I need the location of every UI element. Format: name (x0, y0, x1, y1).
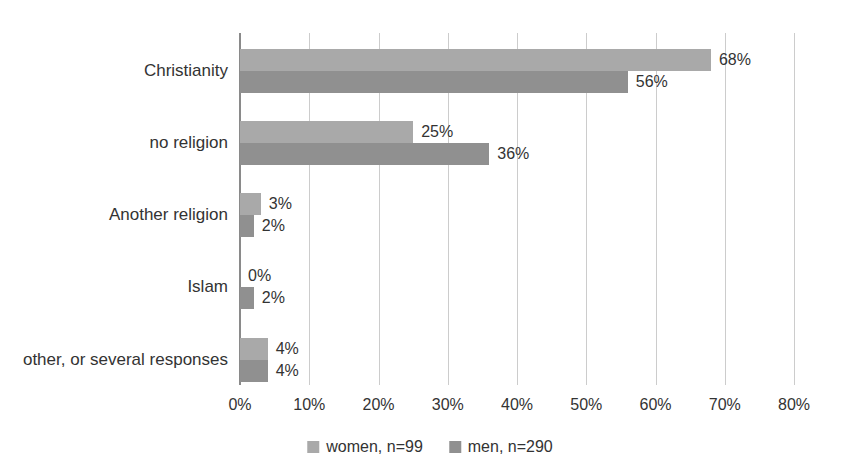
bar-women (240, 338, 268, 360)
x-tick-label: 30% (418, 396, 478, 414)
bar-men (240, 215, 254, 237)
value-label: 2% (262, 287, 285, 309)
bar-men (240, 71, 628, 93)
bar-women (240, 49, 711, 71)
value-label: 56% (636, 71, 668, 93)
legend-swatch-women-icon (307, 441, 319, 453)
value-label: 3% (269, 193, 292, 215)
bar-women (240, 193, 261, 215)
category-label: Christianity (144, 60, 228, 82)
x-tick-label: 40% (487, 396, 547, 414)
bar-men (240, 143, 489, 165)
legend-label-women: women, n=99 (326, 438, 423, 456)
x-tick-label: 50% (556, 396, 616, 414)
legend-label-men: men, n=290 (468, 438, 553, 456)
legend-item-men: men, n=290 (449, 438, 553, 456)
category-label: Another religion (109, 204, 228, 226)
legend: women, n=99 men, n=290 (307, 438, 552, 456)
bar-men (240, 287, 254, 309)
gridline (725, 33, 726, 385)
legend-item-women: women, n=99 (307, 438, 423, 456)
x-tick-label: 60% (626, 396, 686, 414)
x-tick-label: 70% (695, 396, 755, 414)
value-label: 68% (719, 49, 751, 71)
legend-swatch-men-icon (449, 441, 461, 453)
x-tick-label: 10% (279, 396, 339, 414)
category-label: no religion (150, 132, 228, 154)
value-label: 25% (421, 121, 453, 143)
gridline (794, 33, 795, 385)
x-tick-label: 0% (210, 396, 270, 414)
category-label: other, or several responses (23, 349, 228, 371)
bar-men (240, 360, 268, 382)
x-tick-label: 20% (349, 396, 409, 414)
value-label: 4% (276, 360, 299, 382)
value-label: 0% (248, 265, 271, 287)
value-label: 4% (276, 338, 299, 360)
category-label: Islam (187, 276, 228, 298)
value-label: 36% (497, 143, 529, 165)
value-label: 2% (262, 215, 285, 237)
x-tick-label: 80% (764, 396, 824, 414)
bar-women (240, 121, 413, 143)
bar-chart: 0%10%20%30%40%50%60%70%80%Christianity68… (0, 0, 841, 476)
